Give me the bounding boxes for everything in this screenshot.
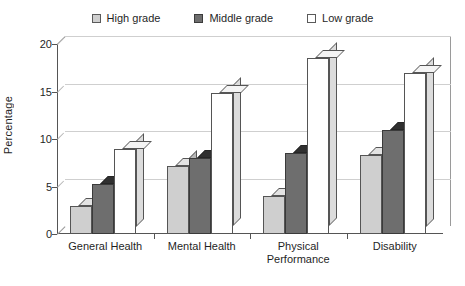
x-axis-category-label: PhysicalPerformance — [250, 240, 347, 266]
bar-front-face — [404, 73, 426, 235]
bar-group — [70, 44, 136, 234]
y-axis-tick-label: 20 — [40, 38, 52, 50]
bar — [307, 58, 329, 234]
bar-front-face — [285, 153, 307, 234]
bar-front-face — [114, 149, 136, 235]
bar-group — [167, 44, 233, 234]
bar-side-face — [233, 77, 241, 226]
bar-front-face — [307, 58, 329, 234]
bar-top-face — [122, 141, 152, 149]
x-axis-category-label-line: Performance — [250, 253, 347, 266]
bar — [70, 206, 92, 235]
x-axis-category-label-line: Disability — [347, 240, 444, 253]
x-axis-category-label-line: General Health — [57, 240, 154, 253]
y-axis-title: Percentage — [2, 96, 16, 154]
x-axis-category-label: General Health — [57, 240, 154, 253]
bar-front-face — [360, 155, 382, 234]
bar — [92, 184, 114, 234]
bar-top-face — [315, 50, 345, 58]
bar-front-face — [92, 184, 114, 234]
x-axis-tick-mark — [347, 234, 348, 239]
x-axis-category-label-line: Physical — [250, 240, 347, 253]
bar-front-face — [189, 158, 211, 234]
bar-group — [360, 44, 426, 234]
x-axis-tick-mark — [154, 234, 155, 239]
x-axis-category-label-line: Mental Health — [154, 240, 251, 253]
bar-top-face — [412, 65, 442, 73]
bar — [114, 149, 136, 235]
legend-item-low-grade: Low grade — [307, 12, 373, 24]
bar — [263, 196, 285, 234]
bar-front-face — [167, 166, 189, 234]
y-axis-tick-mark — [52, 234, 57, 235]
gridline — [65, 36, 451, 37]
legend-label-middle-grade: Middle grade — [209, 12, 273, 24]
bar-side-face — [426, 57, 434, 227]
bar-front-face — [211, 93, 233, 234]
bar-series-layer — [57, 44, 443, 234]
legend-swatch-icon-middle-grade — [194, 14, 203, 23]
bar — [382, 130, 404, 235]
bar-top-face — [219, 85, 249, 93]
bar-front-face — [382, 130, 404, 235]
bar-front-face — [70, 206, 92, 235]
y-axis-tick-label: 10 — [40, 133, 52, 145]
legend-swatch-icon-low-grade — [307, 14, 316, 23]
x-axis-category-label: Mental Health — [154, 240, 251, 253]
bar — [167, 166, 189, 234]
x-axis-category-label: Disability — [347, 240, 444, 253]
legend-label-high-grade: High grade — [107, 12, 161, 24]
chart-legend: High grade Middle grade Low grade — [0, 12, 465, 24]
bar-side-face — [329, 42, 337, 226]
legend-item-middle-grade: Middle grade — [194, 12, 273, 24]
x-axis-labels: General HealthMental HealthPhysicalPerfo… — [57, 240, 443, 280]
bar — [285, 153, 307, 234]
plot-area: 05101520 — [57, 44, 443, 234]
bar — [189, 158, 211, 234]
legend-label-low-grade: Low grade — [322, 12, 373, 24]
bar — [360, 155, 382, 234]
y-axis-tick-label: 15 — [40, 86, 52, 98]
legend-item-high-grade: High grade — [92, 12, 161, 24]
bar-chart: High grade Middle grade Low grade Percen… — [0, 0, 465, 286]
bar — [404, 73, 426, 235]
legend-swatch-icon-high-grade — [92, 14, 101, 23]
bar-front-face — [263, 196, 285, 234]
x-axis-tick-mark — [250, 234, 251, 239]
bar-group — [263, 44, 329, 234]
bar — [211, 93, 233, 234]
